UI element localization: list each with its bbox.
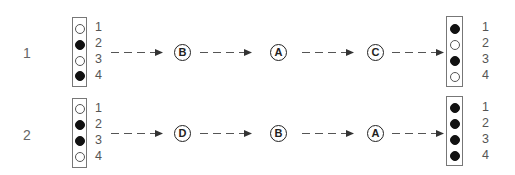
pin-number: 1: [95, 19, 102, 35]
end-switch-block: [446, 96, 463, 166]
pin-number: 1: [95, 100, 102, 116]
dashed-arrow: [111, 51, 163, 53]
switch-3-on: [75, 136, 85, 146]
dashed-arrow: [302, 132, 354, 134]
step-node-d: D: [174, 125, 191, 142]
arrow-icon: [200, 51, 252, 55]
step-node-c: C: [367, 44, 384, 61]
dashed-arrow: [111, 132, 163, 134]
end-pin-numbers: 1 2 3 4: [482, 99, 489, 163]
dashed-arrow: [200, 132, 252, 134]
step-node-a: A: [270, 44, 287, 61]
start-pin-numbers: 1 2 3 4: [95, 19, 102, 83]
pin-number: 3: [482, 51, 489, 67]
sequence-row-2: 2 1 2 3 4 D B A 1 2 3 4: [0, 90, 515, 170]
pin-number: 4: [482, 67, 489, 83]
dashed-arrow: [392, 51, 444, 53]
switch-4-on: [450, 151, 460, 161]
switch-3-on: [450, 56, 460, 66]
arrow-icon: [302, 51, 354, 55]
pin-number: 3: [95, 51, 102, 67]
start-switch-block: [72, 98, 87, 168]
step-node-a: A: [367, 125, 384, 142]
switch-2-on: [450, 119, 460, 129]
pin-number: 2: [482, 115, 489, 131]
switch-3-on: [450, 135, 460, 145]
end-pin-numbers: 1 2 3 4: [482, 19, 489, 83]
row-label: 2: [23, 127, 31, 143]
switch-2-on: [75, 40, 85, 50]
arrow-icon: [302, 132, 354, 136]
end-switch-block: [446, 16, 463, 87]
pin-number: 4: [95, 67, 102, 83]
dashed-arrow: [392, 132, 444, 134]
switch-2-off: [450, 40, 460, 50]
pin-number: 2: [482, 35, 489, 51]
switch-4-off: [450, 72, 460, 82]
pin-number: 2: [95, 116, 102, 132]
pin-number: 2: [95, 35, 102, 51]
step-node-b: B: [174, 44, 191, 61]
start-switch-block: [72, 17, 87, 87]
pin-number: 4: [95, 148, 102, 164]
switch-3-off: [75, 56, 85, 66]
step-node-b: B: [270, 125, 287, 142]
arrow-icon: [392, 132, 444, 136]
arrow-icon: [111, 132, 163, 136]
start-pin-numbers: 1 2 3 4: [95, 100, 102, 164]
pin-number: 3: [482, 131, 489, 147]
pin-number: 1: [482, 19, 489, 35]
pin-number: 1: [482, 99, 489, 115]
arrow-icon: [392, 51, 444, 55]
pin-number: 3: [95, 132, 102, 148]
switch-4-on: [75, 71, 85, 81]
pin-number: 4: [482, 147, 489, 163]
switch-2-on: [75, 120, 85, 130]
switch-1-off: [75, 104, 85, 114]
sequence-row-1: 1 1 2 3 4 B A C 1 2 3 4: [0, 0, 515, 80]
arrow-icon: [200, 132, 252, 136]
dashed-arrow: [200, 51, 252, 53]
switch-4-off: [75, 152, 85, 162]
switch-1-on: [450, 103, 460, 113]
switch-1-on: [450, 24, 460, 34]
row-label: 1: [23, 45, 31, 61]
dashed-arrow: [302, 51, 354, 53]
arrow-icon: [111, 51, 163, 55]
switch-1-off: [75, 24, 85, 34]
